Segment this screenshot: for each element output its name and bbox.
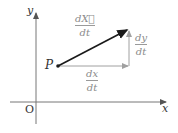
dx-label-numerator: dx — [86, 68, 98, 79]
velocity-label-denominator: dt — [80, 27, 90, 38]
fraction-bar — [135, 44, 147, 45]
x-axis-label: x — [162, 102, 168, 115]
fraction-bar — [75, 25, 95, 26]
y-axis-label: y — [27, 4, 33, 17]
velocity-label-numerator: dX⃗ — [75, 13, 95, 24]
velocity-label: dX⃗ dt — [75, 13, 95, 38]
fraction-bar — [86, 80, 98, 81]
dy-label: dy dt — [135, 32, 147, 57]
dy-label-denominator: dt — [136, 46, 146, 57]
dx-label-denominator: dt — [87, 82, 97, 93]
point-p-label: P — [45, 58, 53, 72]
dy-label-numerator: dy — [135, 32, 147, 43]
origin-label: O — [25, 103, 34, 116]
point-p-dot — [56, 64, 60, 68]
dx-label: dx dt — [86, 68, 98, 93]
